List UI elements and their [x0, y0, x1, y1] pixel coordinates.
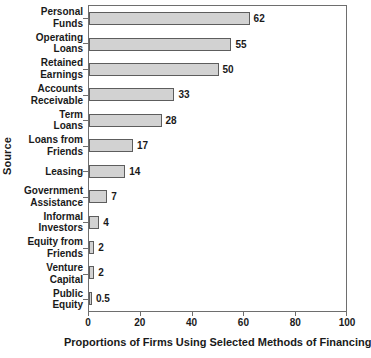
category-label: PersonalFunds	[14, 5, 87, 31]
bar-value-label: 28	[166, 115, 177, 126]
category-label: PublicEquity	[14, 286, 87, 312]
category-label-line: Friends	[47, 248, 83, 260]
category-label-line: Funds	[53, 18, 83, 30]
bar-row: 4	[89, 209, 346, 234]
category-label-line: Retained	[41, 57, 83, 69]
x-axis-title: Proportions of Firms Using Selected Meth…	[0, 336, 355, 348]
category-label: OperatingLoans	[14, 31, 87, 57]
category-label-line: Loans	[54, 120, 83, 132]
bar-row: 62	[89, 6, 346, 31]
bar	[89, 12, 250, 25]
category-label-line: Venture	[46, 262, 83, 274]
category-label-line: Term	[59, 109, 83, 121]
bars-layer: 6255503328171474220.5	[89, 6, 346, 311]
bar-value-label: 55	[235, 39, 246, 50]
category-label-line: Informal	[44, 211, 83, 223]
x-tick-label: 60	[238, 317, 249, 328]
category-label-line: Receivable	[31, 95, 83, 107]
bar-value-label: 7	[111, 191, 117, 202]
bar-value-label: 0.5	[96, 293, 110, 304]
x-tick	[295, 312, 296, 316]
bar	[89, 114, 162, 127]
category-label: Loans fromFriends	[14, 133, 87, 159]
plot-area: 6255503328171474220.5	[88, 5, 347, 312]
category-label-line: Investors	[39, 222, 83, 234]
bar-value-label: 33	[178, 89, 189, 100]
category-label-line: Accounts	[37, 83, 83, 95]
bar-row: 2	[89, 260, 346, 285]
x-tick-label: 80	[290, 317, 301, 328]
bar-value-label: 17	[137, 140, 148, 151]
category-label: GovernmentAssistance	[14, 184, 87, 210]
x-tick	[140, 312, 141, 316]
bar-value-label: 2	[98, 267, 104, 278]
y-axis-title: Source	[0, 0, 14, 312]
category-label: Equity fromFriends	[14, 235, 87, 261]
bar	[89, 292, 92, 305]
x-tick-label: 20	[134, 317, 145, 328]
bar	[89, 38, 231, 51]
category-label-line: Equity from	[27, 236, 83, 248]
category-label-line: Assistance	[30, 197, 83, 209]
bar-row: 55	[89, 31, 346, 56]
bar-row: 0.5	[89, 286, 346, 311]
category-label: Leasing	[14, 158, 87, 184]
bar	[89, 216, 99, 229]
bar	[89, 88, 174, 101]
bar-row: 17	[89, 133, 346, 158]
bar-row: 33	[89, 82, 346, 107]
bar-row: 50	[89, 57, 346, 82]
bar-row: 28	[89, 108, 346, 133]
x-tick	[192, 312, 193, 316]
bar	[89, 139, 133, 152]
x-tick-label: 100	[339, 317, 356, 328]
y-axis-title-text: Source	[1, 137, 13, 175]
category-label: VentureCapital	[14, 261, 87, 287]
x-tick	[346, 312, 347, 316]
bar	[89, 165, 125, 178]
category-label: AccountsReceivable	[14, 82, 87, 108]
category-label-line: Capital	[50, 274, 83, 286]
x-axis: 020406080100	[88, 312, 347, 332]
bar	[89, 241, 94, 254]
category-label-line: Leasing	[45, 166, 83, 178]
x-tick	[88, 312, 89, 316]
category-label-line: Earnings	[40, 69, 83, 81]
category-label-line: Personal	[41, 6, 83, 18]
x-tick-label: 40	[186, 317, 197, 328]
category-label-line: Operating	[36, 32, 83, 44]
bar-value-label: 4	[103, 217, 109, 228]
category-label-line: Government	[24, 185, 83, 197]
category-label-line: Equity	[52, 299, 83, 311]
category-axis-labels: PersonalFundsOperatingLoansRetainedEarni…	[14, 5, 87, 312]
x-tick	[243, 312, 244, 316]
bar-row: 7	[89, 184, 346, 209]
x-tick-label: 0	[85, 317, 91, 328]
category-label: RetainedEarnings	[14, 56, 87, 82]
category-label-line: Loans from	[29, 134, 83, 146]
category-label-line: Loans	[54, 43, 83, 55]
bar-value-label: 50	[223, 64, 234, 75]
bar-row: 2	[89, 235, 346, 260]
category-label-line: Public	[53, 288, 83, 300]
category-label-line: Friends	[47, 146, 83, 158]
bar	[89, 63, 219, 76]
bar-value-label: 2	[98, 242, 104, 253]
category-label: TermLoans	[14, 107, 87, 133]
bar	[89, 266, 94, 279]
x-axis-title-text: Proportions of Firms Using Selected Meth…	[0, 336, 371, 348]
bar	[89, 190, 107, 203]
bar-row: 14	[89, 159, 346, 184]
category-label: InformalInvestors	[14, 210, 87, 236]
bar-value-label: 62	[254, 13, 265, 24]
bar-value-label: 14	[129, 166, 140, 177]
